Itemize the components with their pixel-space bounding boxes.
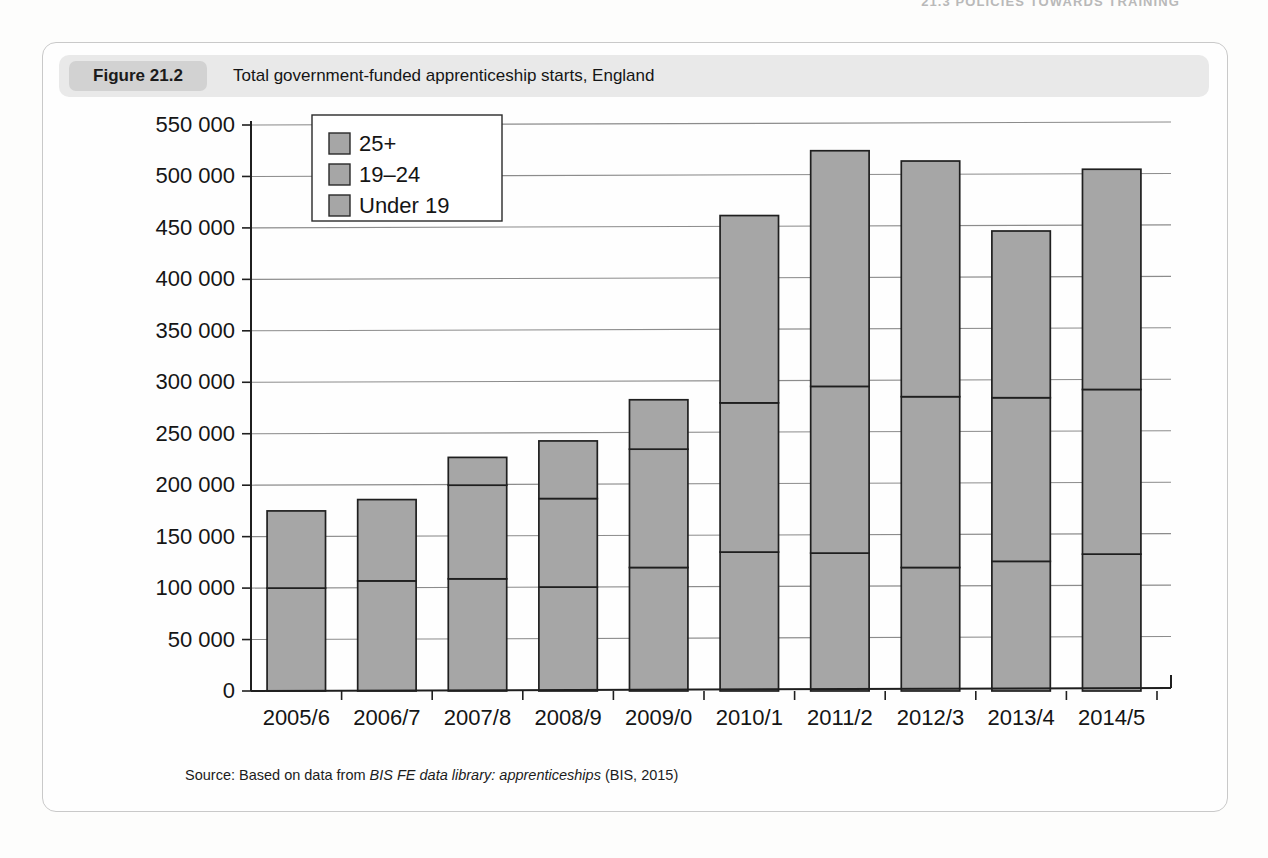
bar-segment — [720, 403, 778, 552]
x-axis-tick-label: 2009/0 — [625, 705, 692, 730]
x-axis-tick-label: 2006/7 — [353, 705, 420, 730]
source-title-italic: BIS FE data library: apprenticeships — [370, 767, 601, 783]
x-axis-tick-label: 2012/3 — [897, 705, 964, 730]
source-suffix: (BIS, 2015) — [601, 767, 678, 783]
bar-segment — [539, 587, 597, 691]
bar-segment — [1082, 169, 1140, 389]
figure-card: Figure 21.2 Total government-funded appr… — [42, 42, 1228, 812]
figure-header: Figure 21.2 Total government-funded appr… — [59, 55, 1209, 97]
figure-body: 050 000100 000150 000200 000250 000300 0… — [59, 105, 1209, 795]
figure-title: Total government-funded apprenticeship s… — [233, 66, 654, 86]
bar-segment — [448, 485, 506, 579]
x-axis-tick-label: 2014/5 — [1078, 705, 1145, 730]
figure-number-badge: Figure 21.2 — [69, 61, 207, 91]
x-axis-tick-label: 2007/8 — [444, 705, 511, 730]
legend-swatch — [329, 164, 350, 185]
bar-segment — [811, 151, 869, 387]
y-axis-tick-label: 100 000 — [155, 575, 235, 600]
legend-label: Under 19 — [359, 193, 450, 218]
y-axis-tick-label: 300 000 — [155, 369, 235, 394]
bar-segment — [629, 449, 687, 567]
bar-segment — [720, 552, 778, 691]
bar-segment — [901, 161, 959, 397]
stacked-bar-chart: 050 000100 000150 000200 000250 000300 0… — [59, 105, 1209, 745]
chart-plot-area: 050 000100 000150 000200 000250 000300 0… — [59, 105, 1209, 745]
y-axis-tick-label: 150 000 — [155, 524, 235, 549]
bar-segment — [1082, 554, 1140, 691]
bar-segment — [992, 231, 1050, 398]
running-head: 21.3 POLICIES TOWARDS TRAINING — [921, 0, 1180, 9]
bar-segment — [629, 568, 687, 691]
bar-segment — [539, 499, 597, 588]
bar-segment — [992, 561, 1050, 691]
source-prefix: Source: Based on data from — [185, 767, 370, 783]
bar-segment — [992, 398, 1050, 562]
y-axis-tick-label: 0 — [223, 678, 235, 703]
bar-segment — [811, 386, 869, 553]
bar-segment — [358, 581, 416, 691]
x-axis-tick-label: 2008/9 — [534, 705, 601, 730]
x-axis-tick-label: 2005/6 — [263, 705, 330, 730]
bar-segment — [901, 397, 959, 568]
bars-group — [267, 151, 1141, 691]
bar-segment — [629, 400, 687, 449]
bar-segment — [720, 216, 778, 403]
y-axis-tick-labels: 050 000100 000150 000200 000250 000300 0… — [155, 112, 235, 703]
gridline — [251, 225, 1171, 228]
bar-segment — [539, 441, 597, 499]
x-axis-tick-labels: 2005/62006/72007/82008/92009/02010/12011… — [263, 705, 1146, 730]
y-axis-tick-label: 200 000 — [155, 472, 235, 497]
bar-segment — [448, 457, 506, 485]
legend-swatch — [329, 195, 350, 216]
y-axis-tick-label: 50 000 — [168, 627, 235, 652]
x-axis-tick-label: 2011/2 — [807, 705, 873, 730]
chart-legend: 25+19–24Under 19 — [312, 115, 502, 221]
legend-swatch — [329, 133, 350, 154]
x-axis-tick-label: 2010/1 — [716, 705, 783, 730]
y-axis-tick-label: 400 000 — [155, 266, 235, 291]
bar-segment — [267, 511, 325, 588]
figure-source-note: Source: Based on data from BIS FE data l… — [185, 767, 678, 783]
y-axis-tick-label: 500 000 — [155, 163, 235, 188]
y-axis-tick-label: 550 000 — [155, 112, 235, 137]
bar-segment — [1082, 389, 1140, 554]
bar-segment — [267, 588, 325, 691]
y-axis-tick-label: 450 000 — [155, 215, 235, 240]
legend-label: 25+ — [359, 131, 396, 156]
bar-segment — [448, 579, 506, 691]
y-axis-tick-label: 350 000 — [155, 318, 235, 343]
bar-segment — [901, 568, 959, 691]
bar-segment — [811, 553, 869, 691]
y-axis-tick-label: 250 000 — [155, 421, 235, 446]
legend-label: 19–24 — [359, 162, 420, 187]
bar-segment — [358, 500, 416, 581]
x-axis-tick-label: 2013/4 — [987, 705, 1054, 730]
